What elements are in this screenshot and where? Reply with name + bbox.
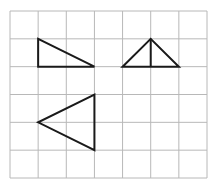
grid-lines (10, 11, 207, 178)
grid-figure (0, 0, 213, 190)
